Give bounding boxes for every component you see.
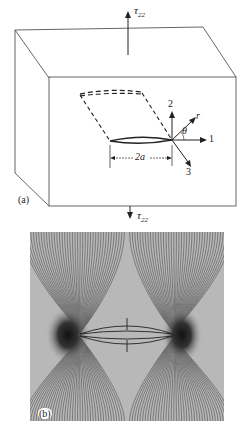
axis-1-label: 1	[209, 133, 214, 144]
panel-a-label: (a)	[18, 194, 29, 205]
r-label: r	[196, 110, 200, 121]
figure	[0, 0, 250, 421]
panel-b-label: (b)	[38, 408, 52, 419]
stress-label-top: τ22	[134, 4, 145, 19]
coordinate-axes	[169, 111, 207, 167]
crack-diagram	[80, 90, 172, 168]
axis-2-label: 2	[168, 98, 173, 109]
panel-b-fringe-pattern	[23, 232, 231, 421]
panel-a-box	[15, 27, 236, 206]
theta-label: θ	[182, 125, 187, 136]
axis-3-label: 3	[186, 166, 191, 177]
stress-arrow-bottom	[127, 206, 133, 219]
stress-label-bottom: τ22	[137, 209, 148, 224]
crack-length-label: 2a	[135, 151, 145, 162]
stress-arrow-top	[125, 11, 131, 55]
